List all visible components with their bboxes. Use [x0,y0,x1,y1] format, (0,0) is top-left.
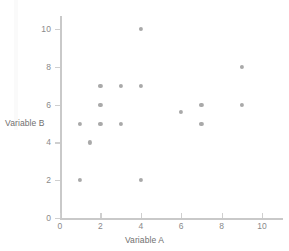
data-point [98,84,102,88]
data-point [199,103,203,107]
x-tick-mark [181,213,182,218]
data-point [179,110,183,114]
x-tick-label: 0 [50,221,70,231]
x-tick-mark [222,213,223,218]
y-axis-line [60,16,62,219]
data-point [88,140,92,144]
paper-texture [14,0,18,130]
y-tick-mark [55,218,60,219]
y-tick-mark [55,29,60,30]
data-point [139,84,143,88]
x-tick-label: 4 [131,221,151,231]
y-axis-label: Variable B [5,118,45,128]
y-tick-mark [55,180,60,181]
data-point [119,121,123,125]
x-tick-mark [141,213,142,218]
x-tick-mark [60,213,61,218]
data-point [139,178,143,182]
y-tick-label: 0 [29,213,51,223]
y-tick-label: 4 [29,137,51,147]
data-point [78,121,82,125]
data-point [139,27,143,31]
x-tick-label: 8 [212,221,232,231]
x-tick-label: 2 [90,221,110,231]
scatter-plot: 0246810 0246810 Variable B Variable A [0,0,289,251]
x-tick-mark [100,213,101,218]
x-tick-label: 6 [171,221,191,231]
x-axis-line [60,218,283,220]
x-tick-mark [262,213,263,218]
y-tick-label: 6 [29,100,51,110]
data-point [98,121,102,125]
y-tick-mark [55,105,60,106]
data-point [199,121,203,125]
data-point [78,178,82,182]
data-point [119,84,123,88]
data-point [240,65,244,69]
data-point [240,103,244,107]
data-point [98,103,102,107]
y-tick-label: 10 [29,24,51,34]
x-axis-label: Variable A [0,235,289,245]
y-tick-label: 2 [29,175,51,185]
x-tick-label: 10 [252,221,272,231]
y-tick-mark [55,142,60,143]
y-tick-mark [55,67,60,68]
y-tick-label: 8 [29,62,51,72]
